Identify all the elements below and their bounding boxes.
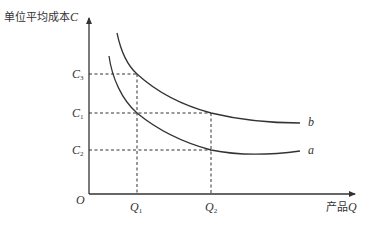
tick-label-c2: C2	[72, 143, 84, 158]
tick-label-q1: Q1	[130, 200, 143, 215]
tick-label-c1: C1	[72, 106, 84, 121]
origin-label: O	[76, 193, 85, 207]
curve-b-label: b	[308, 115, 314, 129]
guide-lines	[89, 74, 211, 194]
curve-a-label: a	[308, 143, 314, 157]
y-axis-title: 单位平均成本C	[4, 10, 79, 24]
average-cost-diagram: 单位平均成本C C3 C1 C2 O Q1 Q2 产品Q b a	[0, 0, 367, 227]
x-axis-title: 产品Q	[326, 200, 357, 214]
curve-a	[109, 56, 300, 154]
tick-label-c3: C3	[72, 67, 84, 82]
curve-b	[117, 33, 300, 123]
tick-label-q2: Q2	[205, 200, 218, 215]
